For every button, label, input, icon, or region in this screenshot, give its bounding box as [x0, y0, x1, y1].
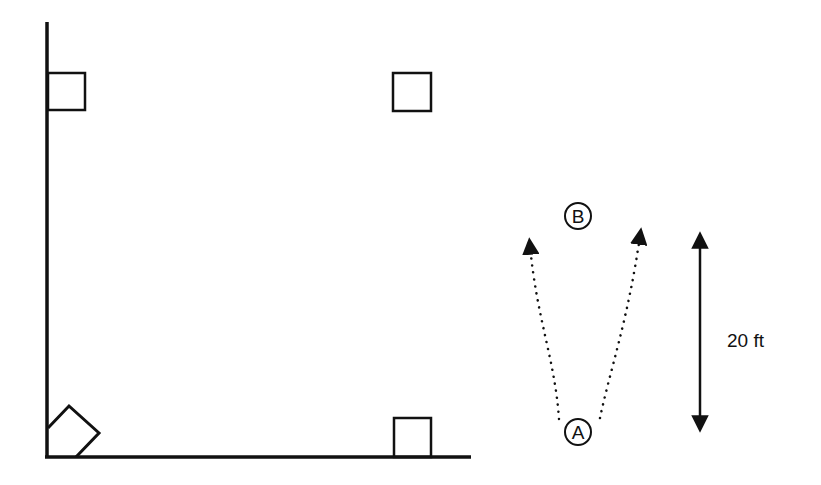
- base-top-left: [48, 73, 85, 110]
- field-diagram: [0, 0, 821, 485]
- base-bottom-right: [394, 418, 431, 457]
- base-top-right: [393, 73, 431, 111]
- path-left-arrow: [530, 246, 559, 419]
- player-b-label: B: [571, 206, 585, 228]
- home-plate: [48, 406, 99, 457]
- dimension-label: 20 ft: [727, 330, 764, 352]
- path-right-arrow: [600, 236, 640, 418]
- player-a-label: A: [571, 422, 585, 444]
